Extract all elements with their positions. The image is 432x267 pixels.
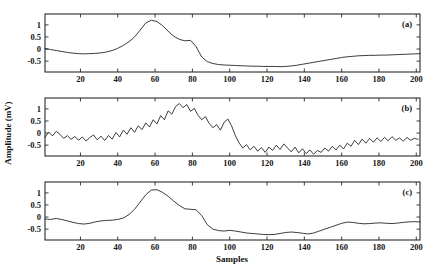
x-tick-label: 40	[114, 242, 123, 252]
x-tick-label: 60	[151, 242, 160, 252]
x-tick-label: 140	[298, 242, 311, 252]
y-tick-label: 1	[37, 104, 41, 114]
x-tick-label: 60	[151, 74, 160, 84]
x-tick-label: 180	[373, 242, 386, 252]
x-tick-label: 120	[261, 74, 274, 84]
y-tick-label: 0.5	[30, 116, 41, 126]
x-tick-label: 60	[151, 158, 160, 168]
y-tick-label: -0.5	[28, 56, 41, 66]
panel-label-c: (c)	[403, 187, 413, 197]
panel-label-b: (b)	[402, 103, 413, 113]
panel-noisy-signal: 2040608010012014016018020010.50-0.5(b)	[28, 98, 423, 168]
x-tick-label: 180	[373, 74, 386, 84]
figure-three-panel-signal: 2040608010012014016018020010.50-0.5(a)20…	[0, 0, 432, 267]
x-tick-label: 200	[410, 74, 423, 84]
x-tick-label: 120	[261, 242, 274, 252]
plot-frame	[45, 182, 420, 240]
trace-denoised-signal	[45, 190, 420, 235]
x-tick-label: 40	[114, 158, 123, 168]
panel-clean-signal: 2040608010012014016018020010.50-0.5(a)	[28, 14, 423, 84]
x-tick-label: 160	[335, 158, 348, 168]
y-tick-label: -0.5	[28, 224, 41, 234]
trace-noisy-signal	[45, 104, 418, 155]
x-tick-label: 140	[298, 74, 311, 84]
plot-frame	[45, 98, 420, 156]
x-tick-label: 160	[335, 74, 348, 84]
y-tick-label: 0	[37, 212, 41, 222]
x-tick-label: 200	[410, 242, 423, 252]
x-tick-label: 20	[76, 242, 85, 252]
x-tick-label: 20	[76, 74, 85, 84]
x-tick-label: 140	[298, 158, 311, 168]
y-tick-label: -0.5	[28, 140, 41, 150]
y-tick-label: 0	[37, 128, 41, 138]
x-tick-label: 40	[114, 74, 123, 84]
y-tick-label: 0.5	[30, 200, 41, 210]
x-tick-label: 100	[223, 74, 236, 84]
x-tick-label: 80	[188, 242, 197, 252]
y-tick-label: 1	[37, 188, 41, 198]
x-axis-title: Samples	[216, 254, 249, 264]
x-tick-label: 200	[410, 158, 423, 168]
x-tick-label: 180	[373, 158, 386, 168]
x-tick-label: 20	[76, 158, 85, 168]
x-tick-label: 100	[223, 242, 236, 252]
y-tick-label: 1	[37, 20, 41, 30]
x-tick-label: 100	[223, 158, 236, 168]
x-tick-label: 80	[188, 158, 197, 168]
x-tick-label: 160	[335, 242, 348, 252]
plot-frame	[45, 14, 420, 72]
y-tick-label: 0.5	[30, 32, 41, 42]
panel-denoised-signal: 2040608010012014016018020010.50-0.5(c)	[28, 182, 423, 252]
y-tick-label: 0	[37, 44, 41, 54]
x-tick-label: 80	[188, 74, 197, 84]
trace-clean-signal	[45, 20, 420, 66]
y-axis-title: Amplitude (mV)	[3, 101, 13, 164]
x-tick-label: 120	[261, 158, 274, 168]
panel-label-a: (a)	[402, 19, 412, 29]
